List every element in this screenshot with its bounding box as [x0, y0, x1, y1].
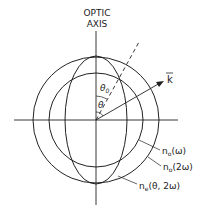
no-w-leader [139, 140, 160, 150]
theta0-label: θ0 [100, 83, 110, 94]
ne-label: ne(θ, 2ω) [139, 181, 180, 192]
no-w-label: no(ω) [162, 146, 186, 157]
theta-arc [96, 112, 103, 116]
no-2w-label: no(2ω) [163, 162, 193, 173]
index-ellipsoid-diagram: OPTIC AXIS k θ0 θ no(ω) no(2ω) ne(θ, 2ω) [0, 0, 204, 210]
no-2w-leader [148, 157, 161, 166]
k-arrowhead-icon [156, 81, 164, 87]
k-label: k [167, 74, 173, 85]
ne-leader [118, 176, 137, 184]
theta-label: θ [98, 100, 104, 110]
optic-axis-label-line1: OPTIC [84, 8, 111, 18]
optic-axis-label-line2: AXIS [87, 19, 108, 29]
theta0-arc [96, 96, 107, 99]
